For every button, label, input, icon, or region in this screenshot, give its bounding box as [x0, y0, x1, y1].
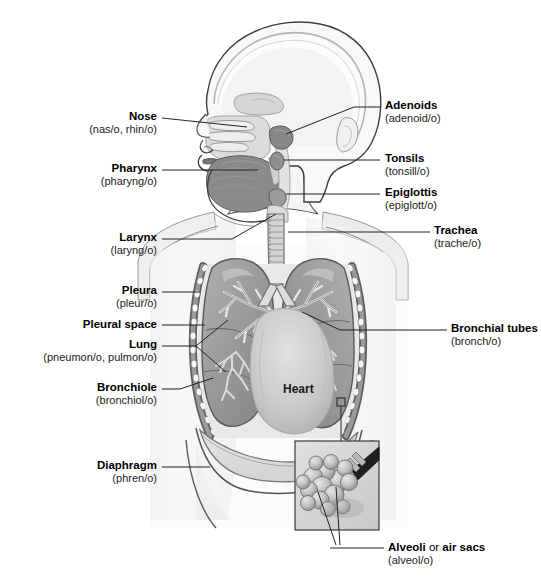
label-title-pleural-space: Pleural space [0, 318, 157, 331]
label-title-alveoli-alt: air sacs [442, 541, 485, 553]
label-subtitle-epiglottis: (epiglott/o) [385, 199, 437, 212]
label-title-alveoli-conjunction: or [426, 541, 443, 553]
label-pleural-space: Pleural space [0, 318, 157, 331]
label-subtitle-lung: (pneumon/o, pulmon/o) [0, 351, 157, 364]
label-title-adenoids: Adenoids [385, 99, 441, 112]
alveoli-inset [295, 441, 379, 545]
label-larynx: Larynx(laryng/o) [0, 231, 157, 257]
label-nose: Nose(nas/o, rhin/o) [0, 110, 157, 136]
label-title-nose: Nose [0, 110, 157, 123]
label-alveoli: Alveoli or air sacs(alveol/o) [388, 541, 485, 567]
label-title-tonsils: Tonsils [385, 152, 430, 165]
label-pharynx: Pharynx(pharyng/o) [0, 162, 157, 188]
label-title-larynx: Larynx [0, 231, 157, 244]
label-title-lung: Lung [0, 338, 157, 351]
label-title-epiglottis: Epiglottis [385, 186, 437, 199]
label-epiglottis: Epiglottis(epiglott/o) [385, 186, 437, 212]
label-title-bronchiole: Bronchiole [0, 381, 157, 394]
label-trachea: Trachea(trache/o) [434, 224, 481, 250]
label-title-trachea: Trachea [434, 224, 481, 237]
label-title-bronchial-tubes: Bronchial tubes [451, 322, 538, 335]
label-pleura: Pleura(pleur/o) [0, 284, 157, 310]
label-subtitle-adenoids: (adenoid/o) [385, 112, 441, 125]
label-subtitle-trachea: (trache/o) [434, 237, 481, 250]
label-title-alveoli: Alveoli or air sacs [388, 541, 485, 554]
label-title-alveoli-primary: Alveoli [388, 541, 426, 553]
label-adenoids: Adenoids(adenoid/o) [385, 99, 441, 125]
label-subtitle-bronchiole: (bronchiol/o) [0, 394, 157, 407]
respiratory-system-diagram: Nose(nas/o, rhin/o)Pharynx(pharyng/o)Lar… [0, 0, 541, 583]
label-subtitle-pharynx: (pharyng/o) [0, 175, 157, 188]
inline-label-heart: Heart [283, 382, 314, 396]
head-profile [197, 22, 381, 226]
label-lung: Lung(pneumon/o, pulmon/o) [0, 338, 157, 364]
label-subtitle-tonsils: (tonsill/o) [385, 165, 430, 178]
label-subtitle-pleura: (pleur/o) [0, 297, 157, 310]
label-subtitle-nose: (nas/o, rhin/o) [0, 123, 157, 136]
label-subtitle-diaphragm: (phren/o) [0, 472, 157, 485]
label-diaphragm: Diaphragm(phren/o) [0, 459, 157, 485]
label-title-pharynx: Pharynx [0, 162, 157, 175]
label-subtitle-alveoli: (alveol/o) [388, 554, 485, 567]
label-title-pleura: Pleura [0, 284, 157, 297]
label-bronchial-tubes: Bronchial tubes(bronch/o) [451, 322, 538, 348]
label-tonsils: Tonsils(tonsill/o) [385, 152, 430, 178]
label-bronchiole: Bronchiole(bronchiol/o) [0, 381, 157, 407]
label-subtitle-larynx: (laryng/o) [0, 244, 157, 257]
label-subtitle-bronchial-tubes: (bronch/o) [451, 335, 538, 348]
label-title-diaphragm: Diaphragm [0, 459, 157, 472]
